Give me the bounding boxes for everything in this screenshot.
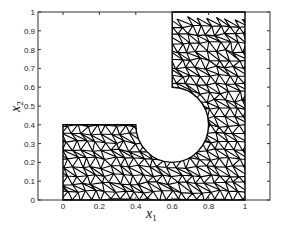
y-axis-label: x2 <box>8 101 25 113</box>
triangle-mesh <box>52 16 269 201</box>
y-tick-label: 0.8 <box>24 46 36 55</box>
x-tick-label: 0.6 <box>167 202 179 211</box>
x-tick-label: 1 <box>243 202 248 211</box>
x-tick-label: 0.8 <box>203 202 215 211</box>
y-tick-label: 0.2 <box>24 158 36 167</box>
mesh-plot: 00.20.40.60.81 00.10.20.30.40.50.60.70.8… <box>0 0 285 227</box>
y-tick-label: 0 <box>31 196 36 205</box>
y-tick-label: 1 <box>31 8 36 17</box>
y-tick-label: 0.7 <box>24 64 36 73</box>
x-tick-label: 0.2 <box>94 202 106 211</box>
x-tick-label: 0 <box>61 202 66 211</box>
x-tick-label: 0.4 <box>130 202 142 211</box>
y-tick-label: 0.4 <box>24 121 36 130</box>
y-tick-label: 0.6 <box>24 83 36 92</box>
y-tick-label: 0.1 <box>24 177 36 186</box>
y-tick-label: 0.9 <box>24 27 36 36</box>
y-tick-label: 0.5 <box>24 102 36 111</box>
y-tick-label: 0.3 <box>24 140 36 149</box>
x-axis-label: x1 <box>145 206 157 223</box>
